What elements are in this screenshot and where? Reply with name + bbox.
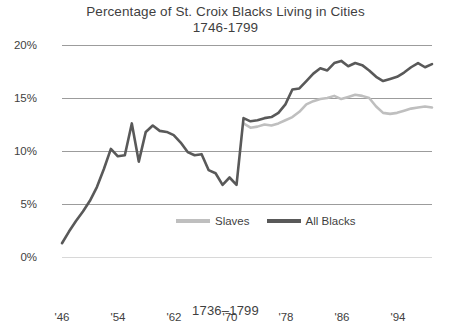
- y-tick-label-15: 15%: [0, 93, 37, 104]
- y-tick-label-0: 0%: [0, 252, 37, 263]
- legend-label-all-blacks: All Blacks: [306, 215, 356, 227]
- chart-caption: 1736–1799: [0, 303, 451, 318]
- legend-item-all-blacks: All Blacks: [267, 215, 356, 227]
- y-tick-label-10: 10%: [0, 146, 37, 157]
- chart-title-block: Percentage of St. Croix Blacks Living in…: [0, 4, 451, 36]
- y-tick-label-20: 20%: [0, 40, 37, 51]
- chart-legend: Slaves All Blacks: [176, 215, 355, 227]
- series-line-slaves: [244, 95, 432, 128]
- legend-swatch-all-blacks: [267, 219, 301, 223]
- legend-label-slaves: Slaves: [215, 215, 250, 227]
- y-tick-label-5: 5%: [0, 199, 37, 210]
- chart-subtitle: 1746-1799: [0, 20, 451, 36]
- axis-baseline-0: [62, 257, 432, 258]
- legend-swatch-slaves: [176, 219, 210, 223]
- chart-container: Percentage of St. Croix Blacks Living in…: [0, 0, 451, 335]
- legend-item-slaves: Slaves: [176, 215, 250, 227]
- page-title: Percentage of St. Croix Blacks Living in…: [0, 4, 451, 20]
